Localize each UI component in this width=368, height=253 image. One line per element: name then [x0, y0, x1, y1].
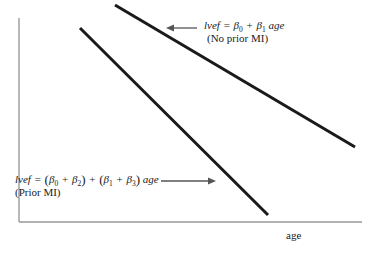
equation-lhs-bottom: lvef [15, 173, 31, 185]
top-annotation-arrow [166, 25, 197, 32]
x-axis-label: age [286, 229, 301, 241]
equals-sign-top: = [223, 19, 231, 31]
note-prior-mi: (Prior MI) [15, 186, 61, 198]
plus-sign-3: + [116, 173, 124, 185]
regression-lines-diagram: lvef = β0 + β1 age (No prior MI) lvef = … [0, 0, 368, 253]
close-paren-1: ) [81, 172, 85, 187]
bottom-annotation-arrow [161, 178, 216, 185]
open-paren-2: ( [99, 172, 103, 187]
equation-prior-mi: lvef = (β0 + β2) + (β1 + β3) age [15, 171, 159, 187]
variable-age-bottom: age [143, 173, 159, 185]
equation-lhs-top: lvef [204, 19, 220, 31]
plus-sign-1: + [61, 173, 69, 185]
close-paren-2: ) [136, 172, 140, 187]
plus-sign-2: + [88, 173, 96, 185]
variable-age-top: age [269, 19, 285, 31]
beta-1-subscript-bottom: 1 [109, 179, 113, 188]
note-no-prior-mi: (No prior MI) [207, 32, 268, 44]
open-paren-1: ( [45, 172, 49, 187]
plus-sign-top: + [246, 19, 254, 31]
equation-no-prior-mi: lvef = β0 + β1 age [204, 19, 284, 33]
plot-canvas [0, 0, 368, 253]
equals-sign-bottom: = [34, 173, 42, 185]
